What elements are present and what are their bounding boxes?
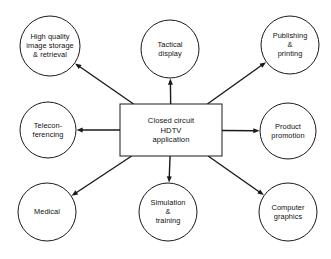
edge-to-computer-graphics [208, 156, 264, 195]
node-publishing-printing-shape[interactable] [261, 16, 319, 74]
edge-to-medical-arrowhead-icon [72, 190, 79, 196]
edge-to-high-quality-image-storage [75, 63, 133, 104]
nodes-layer [18, 16, 319, 241]
edge-to-medical [72, 156, 132, 196]
diagram-svg [0, 0, 331, 259]
edge-to-teleconferencing [77, 128, 121, 133]
center-node-shape[interactable] [120, 104, 222, 156]
edge-to-medical-line [74, 156, 131, 194]
edge-to-product-promotion-arrowhead-icon [253, 128, 259, 133]
edge-to-simulation-training-line [169, 156, 170, 179]
node-high-quality-image-storage-shape[interactable] [20, 16, 80, 76]
edge-to-simulation-training-arrowhead-icon [167, 176, 172, 182]
node-medical-shape[interactable] [18, 183, 76, 241]
edge-to-computer-graphics-line [208, 156, 261, 193]
edge-to-high-quality-image-storage-line [78, 65, 134, 104]
edge-to-product-promotion [222, 128, 260, 133]
edge-to-simulation-training [167, 156, 172, 183]
node-product-promotion-shape[interactable] [260, 103, 316, 159]
node-computer-graphics-shape[interactable] [259, 183, 317, 241]
edge-to-tactical-display [168, 78, 173, 104]
edge-to-teleconferencing-arrowhead-icon [77, 128, 83, 133]
edge-to-publishing-printing [207, 62, 266, 104]
node-simulation-training-shape[interactable] [139, 183, 197, 241]
edge-to-tactical-display-arrowhead-icon [168, 78, 173, 84]
diagram-canvas: Closed circuit HDTV applicationHigh qual… [0, 0, 331, 259]
edge-to-computer-graphics-arrowhead-icon [257, 189, 264, 195]
node-tactical-display-shape[interactable] [141, 20, 199, 78]
edge-to-publishing-printing-line [207, 64, 263, 104]
node-teleconferencing-shape[interactable] [20, 102, 76, 158]
edge-to-high-quality-image-storage-arrowhead-icon [75, 63, 82, 69]
